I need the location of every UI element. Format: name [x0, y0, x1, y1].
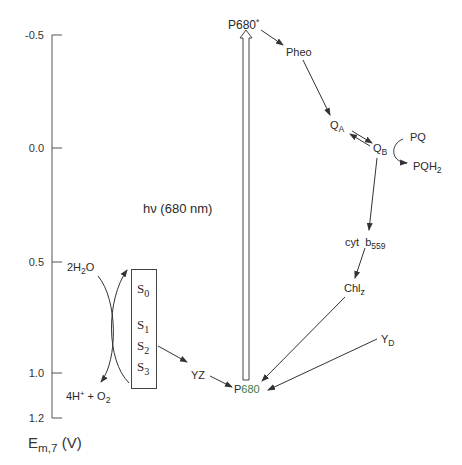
arrow-s3-to-s0: [111, 270, 129, 383]
excitation-arrow: [240, 30, 252, 380]
water-label: 2H2O: [67, 262, 94, 273]
axis-tick-label: 0.5: [4, 257, 44, 268]
arrow-p680star-pheo: [261, 30, 283, 45]
axis-tick-label: -0.5: [4, 30, 44, 41]
pq-label: PQ: [410, 132, 426, 143]
s-state-s1: S1: [137, 318, 149, 331]
arrow-yd-p680: [268, 339, 377, 390]
axis-title: Em,7 (V): [28, 434, 82, 451]
p680-label: P680: [234, 384, 260, 395]
arrow-s1-yz: [158, 346, 187, 362]
arrow-pq-pqh2: [394, 139, 407, 163]
arrow-qb-cytb559: [369, 158, 377, 230]
products-label: 4H+ + O2: [66, 391, 110, 402]
arrow-chlz-p680: [262, 297, 345, 381]
arrow-yz-p680: [210, 376, 232, 387]
p680-excited-label: P680*: [228, 19, 259, 31]
pheo-label: Pheo: [286, 47, 312, 58]
qb-label: QB: [373, 143, 387, 154]
axis-tick-label: 0.0: [4, 143, 44, 154]
s-state-s2: S2: [137, 339, 149, 352]
yz-label: YZ: [191, 370, 205, 381]
arrow-pheo-qa: [303, 60, 330, 115]
chlz-label: Chlz: [344, 283, 365, 294]
potential-axis: [52, 35, 62, 418]
s-state-s0: S0: [137, 282, 149, 295]
pqh2-label: PQH2: [413, 161, 442, 172]
excitation-label: hν (680 nm): [143, 202, 212, 215]
axis-tick-label: 1.2: [4, 413, 44, 424]
arrow-cytb559-chlz: [355, 248, 365, 278]
qa-label: QA: [330, 120, 344, 131]
s-state-s3: S3: [137, 360, 149, 373]
cyt-b559-label: cyt b559: [345, 237, 386, 248]
yd-label: YD: [381, 334, 395, 345]
axis-tick-label: 1.0: [4, 368, 44, 379]
